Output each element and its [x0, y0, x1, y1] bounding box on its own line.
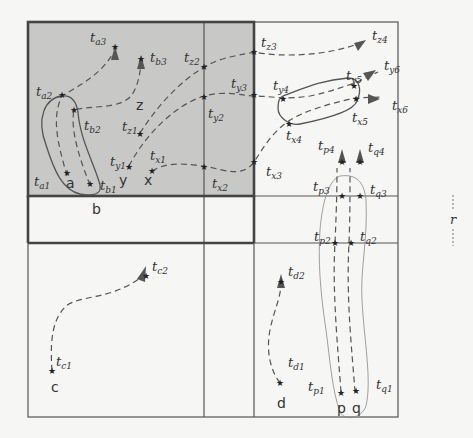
- svg-text:★: ★: [142, 271, 150, 281]
- arrow-y6: [363, 70, 376, 81]
- timestamp-label-q2: tq2: [360, 229, 377, 246]
- range-indicator: r: [450, 195, 457, 246]
- trajectory-q: [348, 168, 355, 392]
- svg-text:★: ★: [137, 54, 145, 64]
- timestamp-label-z3: tz3: [261, 35, 277, 52]
- timestamp-label-d1: td1: [288, 355, 305, 372]
- svg-text:★: ★: [276, 378, 284, 388]
- timestamp-label-q3: tq3: [370, 182, 387, 199]
- svg-text:★: ★: [279, 94, 287, 104]
- svg-text:★: ★: [338, 157, 346, 167]
- object-label-z: z: [136, 97, 143, 113]
- object-label-b: b: [92, 201, 101, 217]
- timestamp-label-c2: tc2: [152, 259, 168, 276]
- svg-text:★: ★: [337, 388, 345, 398]
- svg-text:★: ★: [70, 105, 78, 115]
- svg-text:★: ★: [48, 366, 56, 376]
- trajectory-diagram: r ★: [0, 0, 473, 438]
- timestamp-label-q1: tq1: [376, 377, 393, 394]
- svg-text:★: ★: [200, 162, 208, 172]
- timestamp-label-p1: tp1: [308, 379, 325, 396]
- timestamp-label-x3: tx3: [266, 164, 282, 181]
- timestamp-label-x5: tx5: [352, 110, 368, 127]
- timestamp-label-p2: tp2: [314, 229, 331, 246]
- svg-text:★: ★: [86, 179, 94, 189]
- svg-text:★: ★: [250, 90, 258, 100]
- object-label-a: a: [66, 175, 75, 191]
- timestamp-label-x4: tx4: [286, 128, 302, 145]
- timestamp-label-y5: ty5: [346, 68, 362, 85]
- object-label-x: x: [144, 172, 152, 188]
- range-label: r: [450, 212, 457, 227]
- object-label-q: q: [352, 400, 361, 416]
- arrow-z4: [354, 40, 366, 51]
- svg-text:★: ★: [352, 94, 360, 104]
- svg-text:★: ★: [277, 277, 285, 287]
- object-label-p: p: [337, 400, 346, 416]
- svg-text:★: ★: [200, 62, 208, 72]
- svg-text:★: ★: [356, 191, 364, 201]
- svg-text:★: ★: [352, 386, 360, 396]
- svg-text:★: ★: [200, 92, 208, 102]
- timestamp-label-d2: td2: [288, 264, 305, 281]
- svg-text:★: ★: [111, 42, 119, 52]
- svg-text:★: ★: [347, 238, 355, 248]
- timestamp-label-c1: tc1: [56, 354, 72, 371]
- svg-text:★: ★: [356, 157, 364, 167]
- svg-text:★: ★: [338, 191, 346, 201]
- timestamp-label-y4: ty4: [273, 78, 289, 95]
- timestamp-label-q4: tq4: [368, 140, 385, 157]
- object-label-c: c: [51, 379, 59, 395]
- object-label-d: d: [277, 395, 286, 411]
- group-region-pq: [319, 176, 368, 418]
- trajectory-p: [334, 168, 341, 392]
- object-label-y: y: [119, 172, 127, 188]
- timestamp-label-p4: tp4: [318, 138, 335, 155]
- svg-text:★: ★: [250, 157, 258, 167]
- svg-text:★: ★: [250, 47, 258, 57]
- arrow-x6: [368, 94, 380, 104]
- trajectory-d: [268, 285, 281, 383]
- trajectory-c: [51, 278, 140, 371]
- timestamp-label-z4: tz4: [372, 28, 388, 45]
- timestamp-label-x6: tx6: [392, 98, 408, 115]
- svg-text:★: ★: [58, 90, 66, 100]
- svg-text:★: ★: [331, 238, 339, 248]
- svg-text:★: ★: [125, 162, 133, 172]
- timestamp-label-p3: tp3: [313, 179, 330, 196]
